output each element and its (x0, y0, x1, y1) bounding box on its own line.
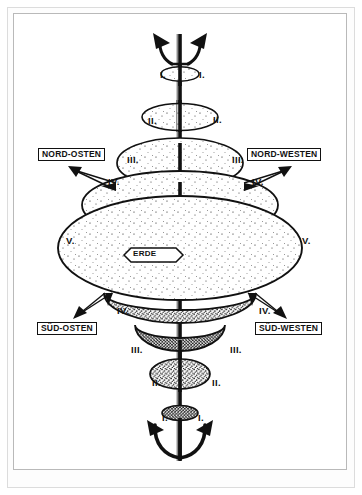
level-numeral-lower-right: IV. (259, 306, 271, 316)
level-numeral-upper-right: III. (232, 155, 244, 165)
figure-page: ERDE NORD-OSTEN NORD-WESTEN SÜD-OSTEN SÜ… (0, 0, 362, 495)
earth-body-level-5 (58, 196, 302, 300)
direction-label-south-west: SÜD-WESTEN (255, 322, 322, 335)
level-numeral-upper-left: III. (127, 155, 139, 165)
erde-label: ERDE (133, 250, 156, 258)
level-numeral-middle-left: V. (66, 236, 75, 246)
level-numeral-lower-left: II. (152, 378, 161, 388)
level-numeral-upper-right: II. (213, 115, 222, 125)
anchor-icon (147, 418, 213, 460)
direction-label-south-east: SÜD-OSTEN (37, 322, 97, 335)
direction-label-north-east: NORD-OSTEN (38, 148, 105, 161)
level-numeral-lower-right: II. (212, 378, 221, 388)
level-numeral-upper-right: I. (199, 70, 205, 80)
level-numeral-lower-left: I. (162, 413, 168, 423)
level-numeral-upper-left: IV. (108, 177, 120, 187)
level-numeral-upper-right: IV. (252, 177, 264, 187)
level-numeral-lower-left: IV. (117, 306, 129, 316)
cosmology-diagram (0, 0, 362, 495)
level-numeral-lower-right: III. (230, 345, 242, 355)
upper-disc-level-1 (161, 64, 199, 86)
level-numeral-upper-left: II. (148, 116, 157, 126)
level-numeral-upper-left: I. (160, 70, 166, 80)
level-numeral-lower-right: I. (198, 413, 204, 423)
level-numeral-lower-left: III. (131, 345, 143, 355)
level-numeral-middle-right: V. (302, 236, 311, 246)
direction-label-north-west: NORD-WESTEN (247, 148, 321, 161)
